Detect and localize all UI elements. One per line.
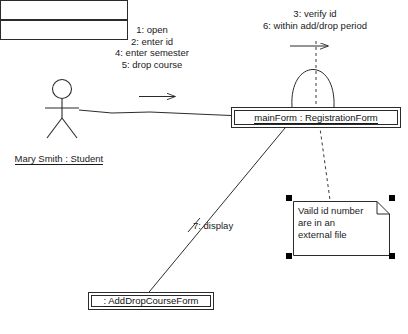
object-adddropcourseform-inner: : AddDropCourseForm — [91, 295, 211, 307]
object-mainform-label: mainForm : RegistrationForm — [254, 112, 378, 124]
actor-label: Mary Smith : Student — [4, 141, 103, 176]
note-shape[interactable]: Vaild id number are in an external file — [293, 201, 390, 256]
object-adddropcourseform-label: : AddDropCourseForm — [103, 295, 198, 307]
selection-handle-top-right[interactable] — [389, 195, 395, 201]
note-text: Vaild id number are in an external file — [298, 205, 363, 241]
object-mainform[interactable]: mainForm : RegistrationForm — [231, 107, 401, 128]
uml-collaboration-diagram: 1: open 2: enter id 4: enter semester 5:… — [0, 0, 408, 334]
object-mainform-inner: mainForm : RegistrationForm — [234, 110, 398, 125]
object-adddropcourseform[interactable]: : AddDropCourseForm — [88, 292, 214, 310]
self-call-arc — [292, 69, 334, 107]
selection-handle-bottom-right[interactable] — [389, 253, 395, 259]
stick-figure-actor-icon — [45, 80, 79, 139]
actor-name: Mary Smith : Student — [15, 153, 104, 165]
message-label-actor-to-mainform: 1: open 2: enter id 4: enter semester 5:… — [86, 24, 218, 70]
selection-handle-top-left[interactable] — [286, 195, 292, 201]
message-label-mainform-to-form: 7: display — [193, 220, 233, 232]
link-mainform-adddropcourseform — [140, 128, 285, 303]
message-label-mainform-self-call: 3: verify id 6: within add/drop period — [222, 8, 408, 31]
selection-handle-bottom-left[interactable] — [286, 253, 292, 259]
link-actor-mainform — [79, 110, 231, 116]
